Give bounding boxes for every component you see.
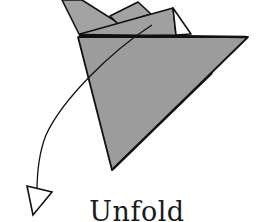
main-front-triangle xyxy=(78,37,248,170)
origami-diagram xyxy=(0,0,260,222)
white-inner-triangle xyxy=(173,8,191,35)
step-caption: Unfold xyxy=(0,198,260,222)
